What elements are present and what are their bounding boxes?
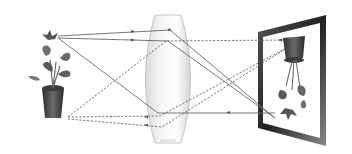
- convex-lens: [146, 15, 191, 143]
- screen-frame: [258, 15, 326, 146]
- lens-diagram: [0, 0, 352, 154]
- potted-plant-object: [28, 30, 70, 118]
- diagram-canvas: [0, 0, 352, 154]
